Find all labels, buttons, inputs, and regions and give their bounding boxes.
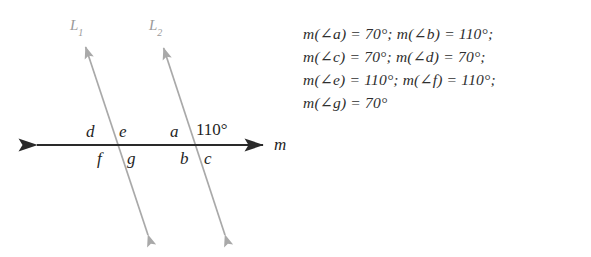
figure-svg [0, 0, 296, 257]
line-label-L2: L2 [149, 18, 162, 36]
answer-text-block: m(∠a) = 70°; m(∠b) = 110°; m(∠c) = 70°; … [303, 22, 583, 114]
angle-label-d: d [86, 123, 95, 140]
transversal-line-L2 [164, 48, 225, 235]
transversal-line-L1 [86, 47, 148, 235]
line-label-L2-subscript: 2 [157, 27, 162, 38]
answer-line-4: m(∠g) = 70° [303, 91, 583, 114]
line-label-L1-subscript: 1 [78, 27, 83, 38]
answer-line-2: m(∠c) = 70°; m(∠d) = 70°; [303, 45, 583, 68]
answer-line-1: m(∠a) = 70°; m(∠b) = 110°; [303, 22, 583, 45]
line-label-L1: L1 [70, 18, 83, 36]
angle-label-f: f [97, 150, 102, 167]
geometry-figure: L1 L2 d e f g a b c 110° m [0, 0, 296, 257]
angle-label-e: e [119, 123, 127, 140]
diagram-canvas: L1 L2 d e f g a b c 110° m m(∠a) = 70°; … [0, 0, 591, 257]
angle-label-b: b [180, 150, 189, 167]
angle-label-g: g [127, 150, 136, 167]
angle-label-a: a [170, 123, 179, 140]
given-angle-measure: 110° [196, 121, 228, 138]
line-label-m: m [274, 136, 286, 153]
angle-label-c: c [204, 150, 212, 167]
answer-line-3: m(∠e) = 110°; m(∠f) = 110°; [303, 68, 583, 91]
